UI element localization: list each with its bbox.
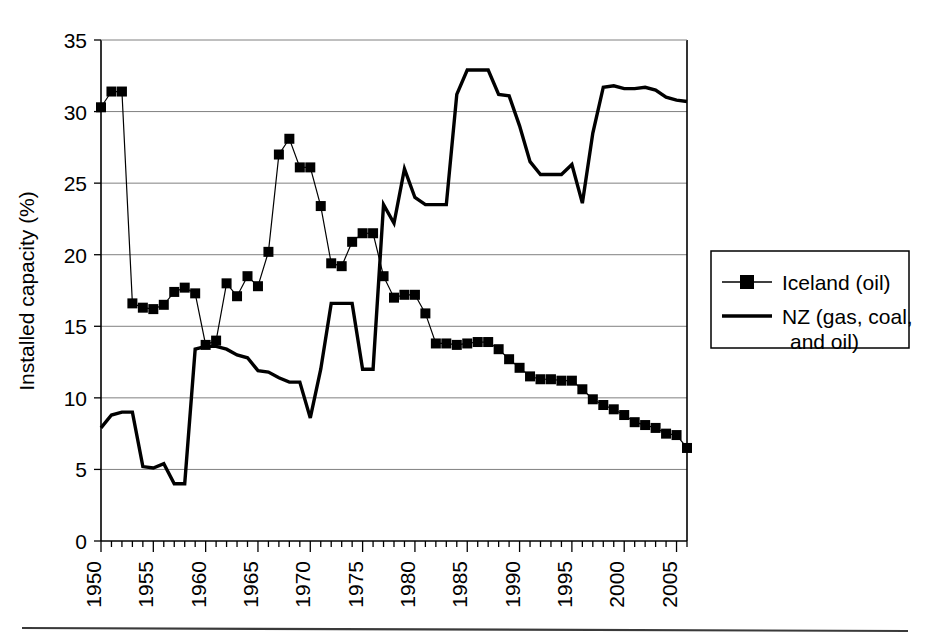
data-point-marker	[389, 293, 399, 303]
data-point-marker	[483, 337, 493, 347]
data-point-marker	[169, 287, 179, 297]
legend-label-nz-line2: and oil)	[790, 330, 859, 353]
data-point-marker	[441, 338, 451, 348]
footer-divider	[22, 628, 908, 631]
x-tick-label-2000: 2000	[605, 561, 628, 608]
legend-swatch-iceland-marker	[740, 275, 754, 289]
data-point-marker	[316, 201, 326, 211]
data-point-marker	[399, 290, 409, 300]
data-point-marker	[190, 288, 200, 298]
data-point-marker	[379, 271, 389, 281]
x-axis-ticks: 1950195519601965197019751980198519901995…	[82, 541, 687, 608]
data-point-marker	[274, 150, 284, 160]
series-path	[101, 92, 687, 448]
data-point-marker	[546, 374, 556, 384]
data-point-marker	[420, 308, 430, 318]
data-point-marker	[337, 261, 347, 271]
x-tick-label-2005: 2005	[658, 561, 681, 608]
data-point-marker	[222, 278, 232, 288]
data-point-marker	[263, 247, 273, 257]
data-point-marker	[431, 338, 441, 348]
chart-canvas: 05101520253035 1950195519601965197019751…	[0, 0, 925, 642]
data-point-marker	[588, 394, 598, 404]
data-point-marker	[577, 384, 587, 394]
series-path	[101, 70, 687, 484]
data-point-marker	[243, 271, 253, 281]
data-point-marker	[347, 237, 357, 247]
series-nz	[101, 70, 687, 484]
data-point-marker	[536, 374, 546, 384]
data-point-marker	[462, 338, 472, 348]
y-tick-label-25: 25	[64, 172, 87, 195]
data-point-marker	[127, 298, 137, 308]
y-tick-label-20: 20	[64, 244, 87, 267]
data-point-marker	[232, 291, 242, 301]
data-point-marker	[682, 443, 692, 453]
y-tick-label-35: 35	[64, 29, 87, 52]
x-tick-label-1985: 1985	[448, 561, 471, 608]
x-tick-label-1955: 1955	[134, 561, 157, 608]
x-tick-label-1960: 1960	[187, 561, 210, 608]
y-axis-title: Installed capacity (%)	[15, 191, 38, 391]
x-tick-label-1965: 1965	[239, 561, 262, 608]
y-tick-label-15: 15	[64, 315, 87, 338]
data-point-marker	[515, 363, 525, 373]
x-tick-label-1990: 1990	[501, 561, 524, 608]
data-point-marker	[253, 281, 263, 291]
data-point-marker	[358, 228, 368, 238]
x-tick-label-1975: 1975	[344, 561, 367, 608]
data-point-marker	[630, 417, 640, 427]
data-point-marker	[106, 87, 116, 97]
data-point-marker	[609, 404, 619, 414]
data-point-marker	[180, 283, 190, 293]
y-tick-label-0: 0	[75, 530, 87, 553]
chart-figure: 05101520253035 1950195519601965197019751…	[0, 0, 925, 642]
data-point-marker	[410, 290, 420, 300]
data-point-marker	[148, 304, 158, 314]
data-point-marker	[567, 376, 577, 386]
x-tick-label-1980: 1980	[396, 561, 419, 608]
data-point-marker	[201, 340, 211, 350]
legend-label-nz-line1: NZ (gas, coal,	[782, 305, 913, 328]
data-point-marker	[368, 228, 378, 238]
data-point-marker	[661, 429, 671, 439]
y-tick-label-30: 30	[64, 101, 87, 124]
data-point-marker	[305, 162, 315, 172]
data-point-marker	[159, 300, 169, 310]
data-point-marker	[651, 423, 661, 433]
data-point-marker	[504, 354, 514, 364]
chart-legend: Iceland (oil) NZ (gas, coal, and oil)	[711, 251, 913, 353]
y-tick-label-10: 10	[64, 387, 87, 410]
data-point-marker	[96, 102, 106, 112]
data-point-marker	[556, 376, 566, 386]
x-tick-label-1950: 1950	[82, 561, 105, 608]
data-point-marker	[619, 410, 629, 420]
data-point-marker	[525, 371, 535, 381]
y-axis-ticks: 05101520253035	[64, 29, 101, 553]
legend-label-iceland: Iceland (oil)	[782, 271, 891, 294]
data-point-marker	[640, 420, 650, 430]
data-point-marker	[117, 87, 127, 97]
x-tick-label-1995: 1995	[553, 561, 576, 608]
data-point-marker	[326, 258, 336, 268]
data-point-marker	[494, 344, 504, 354]
data-point-marker	[672, 430, 682, 440]
data-point-marker	[284, 134, 294, 144]
data-point-marker	[211, 336, 221, 346]
data-point-marker	[295, 162, 305, 172]
data-point-marker	[138, 303, 148, 313]
data-point-marker	[598, 400, 608, 410]
data-point-marker	[452, 340, 462, 350]
data-point-marker	[473, 337, 483, 347]
x-tick-label-1970: 1970	[291, 561, 314, 608]
y-tick-label-5: 5	[75, 458, 87, 481]
